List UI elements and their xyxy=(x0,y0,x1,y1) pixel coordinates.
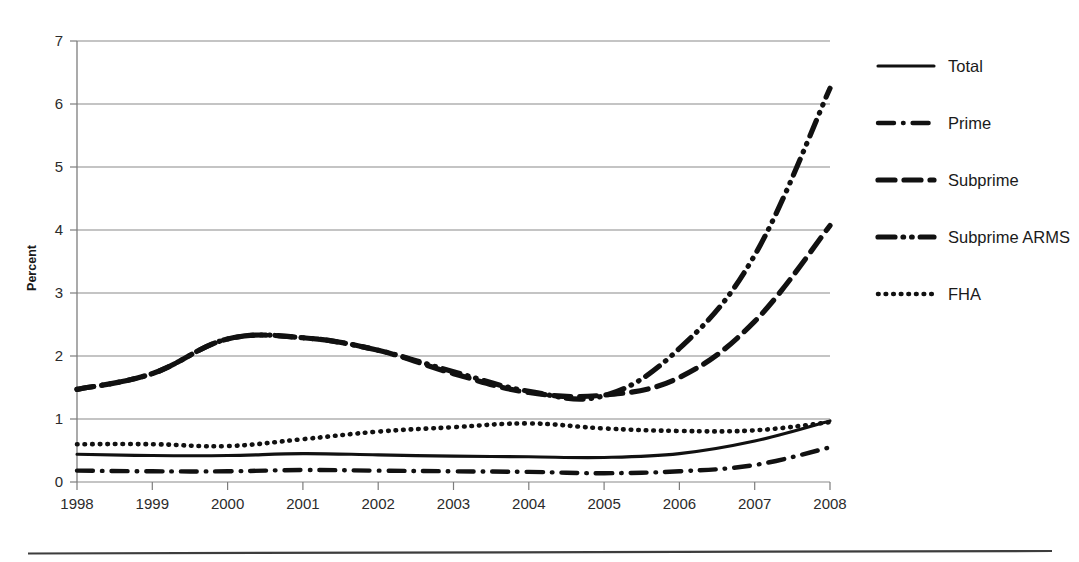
legend-label-fha: FHA xyxy=(948,285,981,303)
y-tick-label: 7 xyxy=(55,32,63,49)
x-tick-label: 2000 xyxy=(211,495,244,512)
chart-figure: 76543210 1998199920002001200220032004200… xyxy=(0,0,1079,562)
y-tick-label: 0 xyxy=(55,473,63,490)
series-line-fha xyxy=(77,422,830,446)
chart-legend: TotalPrimeSubprimeSubprime ARMSFHA xyxy=(878,57,1070,303)
x-tick-label: 2001 xyxy=(286,495,319,512)
gridlines xyxy=(70,41,830,482)
series-line-prime xyxy=(77,447,830,473)
y-axis-title: Percent xyxy=(25,244,39,291)
x-tick-label: 2008 xyxy=(813,495,846,512)
x-tick-label: 1999 xyxy=(136,495,169,512)
x-tick-label: 2003 xyxy=(437,495,470,512)
y-tick-label: 2 xyxy=(55,347,63,364)
footer-divider xyxy=(28,551,1052,554)
x-tick-label: 2005 xyxy=(587,495,620,512)
line-chart: 76543210 1998199920002001200220032004200… xyxy=(0,0,1079,562)
x-tick-label: 2007 xyxy=(738,495,771,512)
y-tick-label: 4 xyxy=(55,221,63,238)
y-tick-label: 3 xyxy=(55,284,63,301)
x-tick-label: 1998 xyxy=(60,495,93,512)
y-tick-label: 6 xyxy=(55,95,63,112)
y-tick-label: 1 xyxy=(55,410,63,427)
y-axis-tick-labels: 76543210 xyxy=(55,32,63,490)
series-line-total xyxy=(77,421,830,458)
x-tick-label: 2002 xyxy=(362,495,395,512)
legend-label-total: Total xyxy=(948,57,983,75)
x-tick-label: 2004 xyxy=(512,495,545,512)
x-axis-tick-labels: 1998199920002001200220032004200520062007… xyxy=(60,495,846,512)
legend-label-prime: Prime xyxy=(948,114,991,132)
axis-ticks xyxy=(77,482,830,490)
legend-label-subprime: Subprime xyxy=(948,171,1019,189)
x-tick-label: 2006 xyxy=(663,495,696,512)
y-tick-label: 5 xyxy=(55,158,63,175)
data-series xyxy=(77,88,830,473)
legend-label-subprime-arms: Subprime ARMS xyxy=(948,228,1070,246)
